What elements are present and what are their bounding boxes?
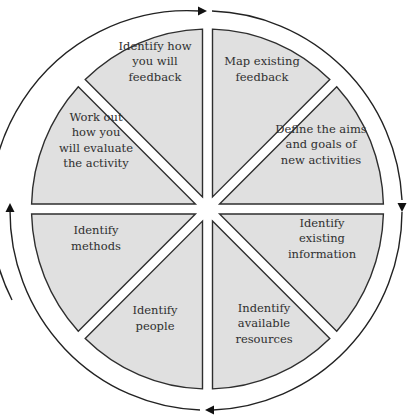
segment-label-line: methods (71, 239, 121, 253)
segment-label-line: Identify (299, 216, 345, 230)
segment-label-identify-people: Identifypeople (132, 303, 178, 333)
segment-label-line: information (288, 247, 357, 261)
segment-label-line: and goals of (286, 137, 358, 151)
segment-label-line: existing (299, 231, 346, 245)
segment-label-line: Map existing (224, 54, 300, 68)
segment-label-line: resources (235, 332, 292, 346)
segment-label-line: Identify how (119, 39, 192, 53)
segment-label-line: will evaluate (59, 141, 133, 155)
segment-label-line: Work out (69, 110, 122, 124)
segment-label-line: how you (72, 125, 121, 139)
arrow-down-icon (398, 203, 407, 212)
segment-label-line: available (238, 316, 290, 330)
segment-label-line: Identify (73, 223, 119, 237)
arrow-right-icon (198, 7, 207, 16)
segment-label-line: Identify (132, 303, 178, 317)
segment-label-line: people (136, 319, 175, 333)
cycle-diagram: Map existingfeedbackDefine the aimsand g… (0, 0, 409, 419)
arrow-up-icon (6, 203, 15, 212)
segment-label-line: feedback (129, 70, 183, 84)
segment-label-line: Define the aims (275, 122, 366, 136)
cycle-arrows (6, 7, 407, 415)
segment-label-work-out-evaluate: Work outhow youwill evaluatethe activity (59, 110, 133, 171)
segment-label-line: Indentify (238, 301, 291, 315)
arrow-left-icon (205, 406, 214, 415)
segment-label-line: feedback (236, 70, 290, 84)
segment-group (32, 29, 384, 389)
segment-label-indentify-available-resources: Indentifyavailableresources (235, 301, 292, 346)
segment-label-line: the activity (63, 156, 129, 170)
segment-label-line: you will (131, 54, 178, 68)
segment-label-identify-methods: Identifymethods (71, 223, 121, 253)
segment-label-line: new activities (281, 153, 362, 167)
segment-label-define-aims-goals: Define the aimsand goals ofnew activitie… (275, 122, 366, 167)
